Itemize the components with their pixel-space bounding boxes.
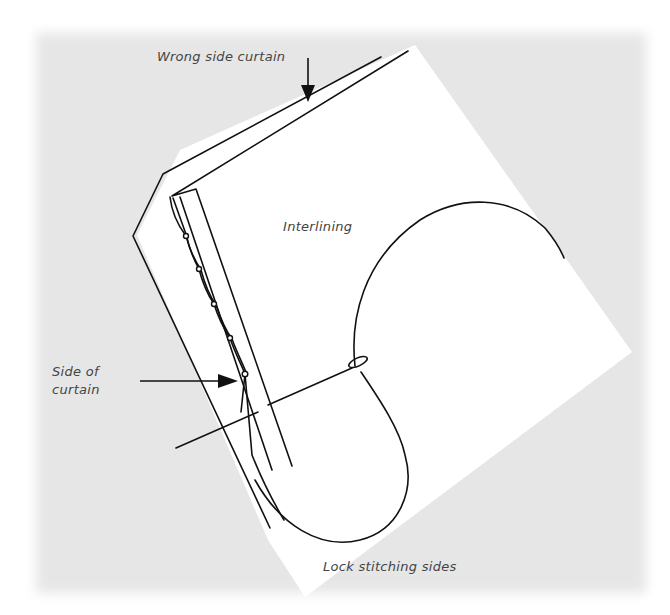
stitch-knot [197, 267, 202, 272]
stitch-knot [184, 234, 189, 239]
label-lock-stitching-sides: Lock stitching sides [323, 559, 457, 575]
label-wrong-side-curtain: Wrong side curtain [157, 49, 285, 65]
label-curtain: curtain [52, 382, 100, 398]
stitch-knot [228, 336, 233, 341]
label-interlining: Interlining [283, 219, 352, 235]
label-side-of: Side of [52, 364, 99, 380]
lock-stitching-illustration [0, 0, 670, 615]
stitch-knot [212, 302, 217, 307]
diagram-canvas: Wrong side curtain Interlining Side of c… [0, 0, 670, 615]
stitch-knot [242, 371, 248, 377]
